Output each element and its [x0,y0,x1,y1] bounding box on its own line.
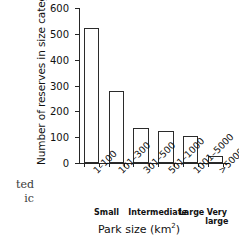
y-axis-tick-label: 100 [50,132,69,143]
bar-chart-figure: Number of reserves in size category 0100… [0,0,239,238]
y-axis-tick: 300 [75,86,79,87]
x-axis-group-label: Very large [204,208,230,226]
y-axis-tick: 100 [75,137,79,138]
y-axis-tick: 400 [75,60,79,61]
y-axis-line [79,8,80,163]
y-axis-tick: 200 [75,111,79,112]
y-axis-tick: 600 [75,8,79,9]
y-axis-tick-label: 500 [50,28,69,39]
x-axis-group-label: Small [81,208,133,217]
bar [84,28,99,163]
y-axis-title: Number of reserves in size category [35,0,47,165]
x-axis-title-close: ) [176,223,180,236]
y-axis-tick-label: 200 [50,106,69,117]
x-axis-title-text: Park size (km [98,223,171,236]
x-axis-title: Park size (km2) [74,222,204,236]
y-axis-tick: 0 [75,163,79,164]
y-axis-tick: 500 [75,34,79,35]
plot-area: 0100200300400500600 [79,8,228,163]
y-axis-tick-label: 400 [50,54,69,65]
y-axis-tick-label: 300 [50,80,69,91]
y-axis-tick-label: 600 [50,3,69,14]
x-axis-tick [84,163,85,167]
y-axis-tick-label: 0 [63,158,69,169]
